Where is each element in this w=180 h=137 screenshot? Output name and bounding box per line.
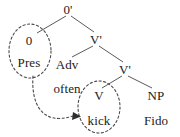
node-vbar-upper-label: V' [90,33,102,46]
syntax-tree-figure: 0' 0 Pres V' Adv often V' V kick NP Fido [0,0,180,137]
node-adv-word-label: often [53,82,80,95]
branch-root-to-vbar-upper [71,16,94,32]
node-adv-label: Adv [56,58,79,71]
node-np-label: NP [148,89,165,102]
node-verb-word-label: kick [88,114,111,127]
node-root-label: 0' [63,3,72,16]
branch-vbar-upper-to-vbar-lower [99,46,123,62]
affix-hopping-arrowhead-icon [72,112,81,120]
node-np-word-label: Fido [144,114,168,127]
branch-vbar-upper-to-adv [72,46,93,57]
node-verb-label: V [94,89,104,102]
node-infl-feature-label: Pres [18,56,41,69]
branch-root-to-infl [37,16,66,33]
branch-vbar-lower-to-np [128,76,152,88]
node-vbar-lower-label: V' [119,63,131,76]
node-infl-label: 0 [26,34,33,47]
